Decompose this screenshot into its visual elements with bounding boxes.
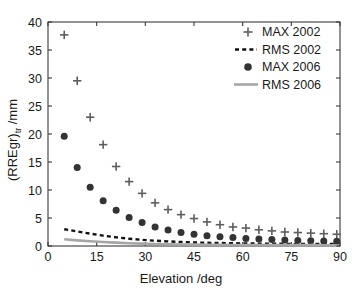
legend-label: MAX 2002 xyxy=(262,25,320,39)
y-tick-label: 35 xyxy=(28,44,42,58)
y-axis-tick-labels: 0510152025303540 xyxy=(28,16,42,254)
x-tick-label: 45 xyxy=(187,250,201,264)
y-tick-label: 30 xyxy=(28,72,42,86)
legend-label: RMS 2002 xyxy=(262,43,321,57)
legend-item-rms-2002: RMS 2002 xyxy=(235,43,321,57)
x-tick-label: 30 xyxy=(138,250,152,264)
legend-item-rms-2006: RMS 2006 xyxy=(234,78,321,92)
x-tick-label: 75 xyxy=(284,250,298,264)
x-axis-tick-labels: 0153045607590 xyxy=(45,250,347,264)
chart-svg: 0153045607590 0510152025303540 MAX 2002R… xyxy=(0,0,361,294)
y-tick-label: 40 xyxy=(28,16,42,30)
chart-figure: 0153045607590 0510152025303540 MAX 2002R… xyxy=(0,0,361,294)
y-axis-label-unit: /mm xyxy=(5,99,20,128)
x-tick-label: 15 xyxy=(90,250,104,264)
y-tick-label: 10 xyxy=(28,184,42,198)
y-tick-label: 0 xyxy=(35,240,42,254)
chart-legend: MAX 2002RMS 2002MAX 2006RMS 2006 xyxy=(234,25,321,92)
y-axis-label: (RREgr)tr /mm xyxy=(5,99,23,181)
legend-item-max-2002: MAX 2002 xyxy=(244,25,321,39)
series-max-2006 xyxy=(61,133,341,245)
x-tick-label: 90 xyxy=(333,250,347,264)
y-axis-label-main: (RREgr) xyxy=(5,133,20,181)
y-tick-label: 5 xyxy=(35,212,42,226)
y-tick-label: 25 xyxy=(28,100,42,114)
legend-item-max-2006: MAX 2006 xyxy=(244,60,320,74)
svg-text:(RREgr)tr /mm: (RREgr)tr /mm xyxy=(5,99,23,181)
y-tick-label: 20 xyxy=(28,128,42,142)
x-tick-label: 60 xyxy=(236,250,250,264)
legend-label: MAX 2006 xyxy=(262,60,320,74)
x-axis-label: Elevation /deg xyxy=(140,271,222,286)
x-tick-label: 0 xyxy=(45,250,52,264)
y-tick-label: 15 xyxy=(28,156,42,170)
legend-label: RMS 2006 xyxy=(262,78,321,92)
